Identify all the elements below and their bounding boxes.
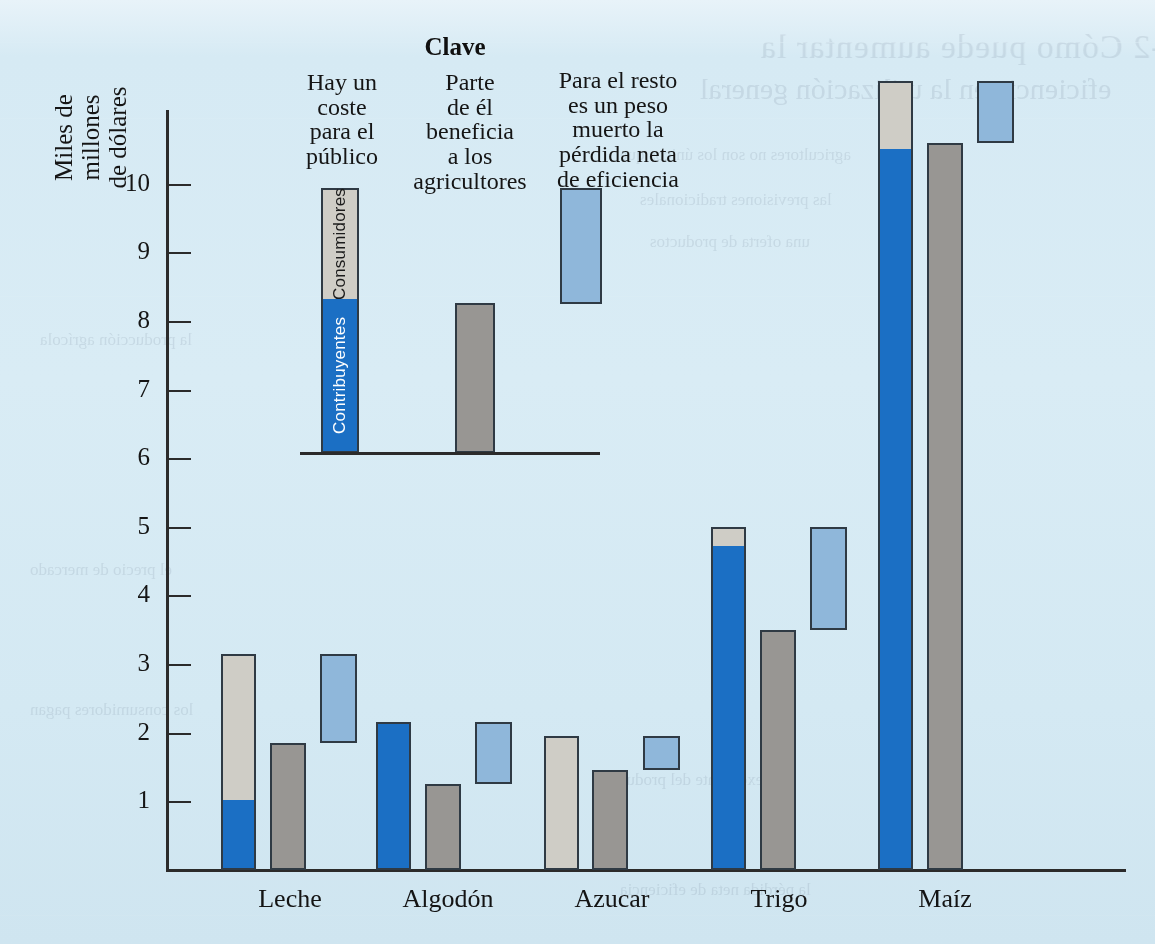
y-tick-8: [169, 321, 191, 323]
y-tick-label-3: 3: [110, 650, 150, 675]
x-category-label-algodon: Algodón: [358, 884, 538, 914]
x-category-label-azucar: Azucar: [527, 884, 697, 914]
legend-bar-deadweight: [560, 188, 602, 304]
bar-deadweight-azucar: [643, 736, 680, 770]
legend-seg-consumers: Consumidores: [323, 190, 357, 299]
y-tick-3: [169, 664, 191, 666]
bar-deadweight-algodon: [475, 722, 512, 784]
y-tick-2: [169, 733, 191, 735]
bar-benefit-azucar: [592, 770, 628, 870]
y-tick-label-9: 9: [110, 238, 150, 263]
bar-deadweight-trigo: [810, 527, 847, 630]
bar-cost-trigo: [711, 527, 746, 870]
bar-benefit-leche: [270, 743, 306, 870]
x-category-label-maiz: Maíz: [860, 884, 1030, 914]
legend-label-contribuyentes: Contribuyentes: [323, 299, 357, 451]
bar-seg-taxpayers-trigo: [713, 546, 744, 868]
y-tick-label-7: 7: [110, 376, 150, 401]
legend-column-deadweight: Para el resto es un peso muerto la pérdi…: [538, 68, 698, 192]
bar-cost-leche: [221, 654, 256, 870]
y-tick-label-1: 1: [110, 787, 150, 812]
bar-seg-consumers-azucar: [546, 738, 577, 868]
legend-seg-taxpayers: Contribuyentes: [323, 299, 357, 451]
legend-column-cost: Hay un coste para el público: [282, 70, 402, 169]
chart-canvas: Clave Hay un coste para el público Parte…: [0, 0, 1155, 944]
bar-benefit-trigo: [760, 630, 796, 870]
legend-title: Clave: [390, 33, 520, 61]
x-category-label-trigo: Trigo: [694, 884, 864, 914]
bar-deadweight-maiz: [977, 81, 1014, 143]
bar-seg-taxpayers-maiz: [880, 149, 911, 868]
y-tick-label-5: 5: [110, 513, 150, 538]
legend-label-consumidores: Consumidores: [323, 190, 357, 299]
bar-seg-taxpayers-leche: [223, 800, 254, 868]
bar-deadweight-leche: [320, 654, 357, 743]
bar-benefit-algodon: [425, 784, 461, 870]
y-tick-9: [169, 252, 191, 254]
bar-cost-algodon: [376, 722, 411, 870]
legend-bar-benefit: [455, 303, 495, 453]
y-tick-7: [169, 390, 191, 392]
bar-seg-consumers-leche: [223, 656, 254, 800]
y-tick-label-6: 6: [110, 444, 150, 469]
y-tick-6: [169, 458, 191, 460]
y-tick-10: [169, 184, 191, 186]
y-tick-5: [169, 527, 191, 529]
y-tick-label-4: 4: [110, 581, 150, 606]
y-tick-label-10: 10: [110, 170, 150, 195]
x-category-label-leche: Leche: [205, 884, 375, 914]
y-tick-label-8: 8: [110, 307, 150, 332]
bar-benefit-maiz: [927, 143, 963, 870]
bar-seg-taxpayers-algodon: [378, 724, 409, 868]
y-axis-line: [166, 110, 169, 872]
y-tick-label-2: 2: [110, 719, 150, 744]
legend-bar-cost: Consumidores Contribuyentes: [321, 188, 359, 453]
y-tick-1: [169, 801, 191, 803]
bar-seg-consumers-trigo: [713, 529, 744, 546]
bar-cost-maiz: [878, 81, 913, 870]
legend-column-benefit: Parte de él beneficia a los agricultores: [405, 70, 535, 194]
y-tick-4: [169, 595, 191, 597]
y-axis-title: Miles de millones de dólares: [50, 38, 131, 238]
bar-seg-consumers-maiz: [880, 83, 911, 149]
x-axis-line: [166, 869, 1126, 872]
bar-cost-azucar: [544, 736, 579, 870]
legend-baseline: [300, 452, 600, 455]
